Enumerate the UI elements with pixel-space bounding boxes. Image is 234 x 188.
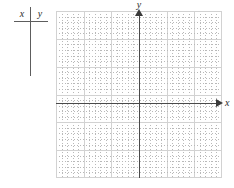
y-axis-arrow-icon	[135, 9, 143, 16]
table-header-y: y	[32, 6, 48, 21]
table-header-rule	[14, 21, 48, 22]
table-column-divider	[30, 7, 31, 76]
xy-value-table: x y	[14, 6, 48, 78]
x-axis	[56, 103, 219, 104]
y-axis-label: y	[134, 0, 144, 10]
worksheet-canvas: x y x y	[0, 0, 234, 188]
table-header-x: x	[14, 6, 30, 21]
x-axis-label: x	[225, 98, 229, 108]
x-axis-arrow-icon	[216, 99, 223, 107]
y-axis	[139, 14, 140, 178]
